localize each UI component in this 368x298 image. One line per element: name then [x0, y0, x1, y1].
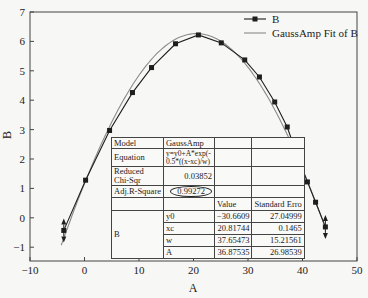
data-marker	[83, 178, 88, 183]
x-tick-label: 10	[134, 264, 146, 276]
x-tick-label: 50	[352, 264, 364, 276]
param-name: w	[163, 235, 214, 247]
x-axis: −1001020304050	[21, 257, 363, 276]
y-tick-label: 4	[20, 94, 26, 106]
param-name: xc	[163, 223, 214, 235]
x-tick-label: 20	[188, 264, 200, 276]
param-value: 20.81744	[214, 223, 251, 235]
legend-label-fit: GaussAmp Fit of B	[272, 27, 358, 39]
y-axis-label: B	[0, 131, 14, 139]
data-marker	[257, 74, 262, 79]
param-error: 27.04999	[252, 211, 304, 223]
param-name: A	[163, 247, 214, 259]
fit-results-table: Model GaussAmp Equation y=y0+A*exp(- 0.5…	[111, 137, 305, 259]
param-error: 0.1465	[252, 223, 304, 235]
model-label: Model	[112, 138, 164, 149]
legend-label-b: B	[272, 13, 279, 25]
data-marker	[242, 57, 247, 62]
data-marker	[173, 41, 178, 46]
legend: B GaussAmp Fit of B	[244, 13, 358, 39]
value-header: Value	[214, 198, 251, 211]
y-tick-label: 6	[20, 35, 26, 47]
data-marker	[285, 124, 290, 129]
data-marker	[149, 65, 154, 70]
y-tick-label: 3	[20, 124, 26, 136]
param-value: 36.87535	[214, 247, 251, 259]
adj-r-square-label: Adj.R-Square	[112, 186, 164, 198]
group-label: B	[112, 211, 164, 259]
error-header: Standard Erro	[252, 198, 304, 211]
data-marker	[196, 32, 201, 37]
reduced-chi-sqr-label: Reduced Chi-Sqr	[112, 167, 164, 186]
data-marker	[130, 90, 135, 95]
x-tick-label: 30	[243, 264, 255, 276]
adj-r-square-value: 0.99272	[170, 186, 212, 197]
y-tick-label: 2	[20, 153, 26, 165]
y-axis: −101234567	[13, 6, 34, 253]
data-marker	[107, 128, 112, 133]
legend-marker-b	[253, 17, 258, 22]
equation-label: Equation	[112, 149, 164, 167]
y-tick-label: 1	[20, 182, 26, 194]
data-marker	[272, 99, 277, 104]
y-tick-label: 0	[20, 212, 26, 224]
x-tick-label: −10	[21, 264, 39, 276]
param-error: 15.21561	[252, 235, 304, 247]
param-error: 26.98539	[252, 247, 304, 259]
data-marker	[313, 200, 318, 205]
y-tick-label: 7	[20, 6, 26, 18]
x-axis-label: A	[189, 281, 198, 295]
y-tick-label: −1	[13, 241, 25, 253]
data-marker	[305, 179, 310, 184]
data-marker	[219, 40, 224, 45]
param-name: y0	[163, 211, 214, 223]
param-value: 37.65473	[214, 235, 251, 247]
x-tick-label: 40	[297, 264, 309, 276]
param-value: −30.6609	[214, 211, 251, 223]
equation-value: y=y0+A*exp(- 0.5*((x-xc)/w)	[163, 149, 214, 167]
model-value: GaussAmp	[163, 138, 214, 149]
reduced-chi-sqr-value: 0.03852	[163, 167, 214, 186]
x-tick-label: 0	[82, 264, 88, 276]
y-tick-label: 5	[20, 65, 26, 77]
